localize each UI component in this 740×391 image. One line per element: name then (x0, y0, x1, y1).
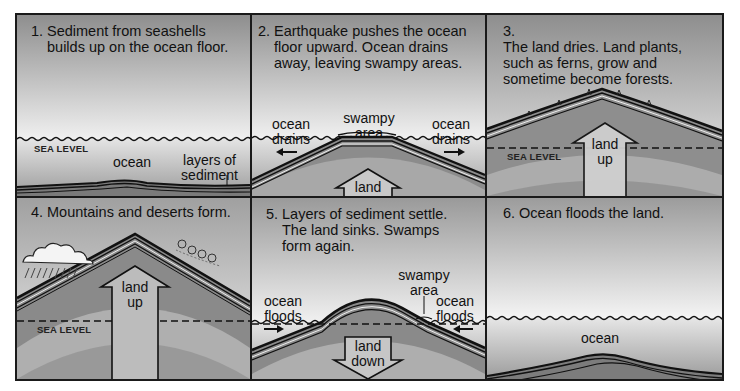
step-number: 1. (31, 23, 47, 39)
land-up-arrow-label: land up (348, 180, 388, 196)
land-down-arrow-label: land down (346, 339, 390, 369)
step-number: 4. (31, 204, 47, 220)
ocean-drains-left-label: ocean drains (266, 117, 316, 147)
panel-3-caption: 3.The land dries. Land plants, such as f… (503, 23, 716, 87)
caption-text: Layers of sediment settle. The land sink… (282, 206, 457, 254)
panel-3: 3.The land dries. Land plants, such as f… (487, 15, 722, 196)
caption-text: Earthquake pushes the ocean floor upward… (274, 23, 474, 71)
panel-2-caption: 2.Earthquake pushes the ocean floor upwa… (258, 23, 479, 71)
rain-cloud-icon (21, 238, 101, 286)
wind-swirl-icon (174, 238, 224, 270)
sediment-label: layers of sediment (177, 153, 242, 183)
swampy-area-label: swampy area (342, 111, 396, 141)
panel-4: 4.Mountains and deserts form. SEA LEVEL … (17, 198, 250, 379)
panel-2: 2.Earthquake pushes the ocean floor upwa… (252, 15, 485, 196)
diagram-frame: 1.Sediment from seashells builds up on t… (15, 13, 724, 381)
ocean-drains-right-label: ocean drains (426, 117, 476, 147)
land-up-arrow-label: land up (115, 280, 155, 310)
caption-text: The land dries. Land plants, such as fer… (503, 39, 703, 87)
sea-level-label: SEA LEVEL (34, 143, 88, 154)
panel-1: 1.Sediment from seashells builds up on t… (17, 15, 250, 196)
ocean-floods-left-label: ocean floods (258, 294, 308, 324)
step-number: 6. (503, 205, 519, 221)
panel-5: 5.Layers of sediment settle. The land si… (252, 198, 485, 379)
panel-6-illustration (487, 198, 722, 379)
sea-level-label: SEA LEVEL (507, 151, 561, 162)
sea-level-label: SEA LEVEL (37, 324, 91, 335)
panel-6-caption: 6.Ocean floods the land. (503, 205, 716, 221)
step-number: 5. (266, 206, 282, 222)
caption-text: Mountains and deserts form. (47, 204, 231, 220)
step-number: 3. (503, 23, 519, 39)
ocean-label: ocean (581, 331, 619, 346)
land-up-arrow-label: land up (587, 137, 623, 167)
panel-5-caption: 5.Layers of sediment settle. The land si… (266, 206, 479, 254)
caption-text: Ocean floods the land. (519, 205, 664, 221)
caption-text: Sediment from seashells builds up on the… (47, 23, 232, 55)
ocean-label: ocean (113, 155, 151, 170)
ocean-floods-right-label: ocean floods (430, 294, 480, 324)
step-number: 2. (258, 23, 274, 39)
panel-6: 6.Ocean floods the land. ocean (487, 198, 722, 379)
panel-4-caption: 4.Mountains and deserts form. (31, 204, 244, 220)
panel-1-caption: 1.Sediment from seashells builds up on t… (31, 23, 244, 55)
